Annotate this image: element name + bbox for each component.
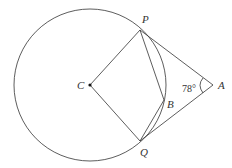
geometry-diagram: P Q C B A 78°	[0, 0, 232, 168]
label-b: B	[167, 98, 174, 110]
chord-bq	[140, 100, 164, 141]
angle-label-a: 78°	[182, 83, 196, 94]
label-q: Q	[140, 146, 148, 158]
label-c: C	[77, 79, 85, 91]
angle-arc-a	[200, 78, 203, 93]
label-a: A	[217, 79, 225, 91]
label-p: P	[141, 13, 149, 25]
radius-cp	[90, 30, 140, 85]
radius-cq	[90, 85, 140, 141]
diagram-canvas: P Q C B A 78°	[0, 0, 232, 168]
tangent-pa	[140, 30, 213, 85]
center-point	[88, 83, 91, 86]
tangent-qa	[140, 85, 213, 141]
